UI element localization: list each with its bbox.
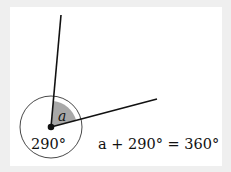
vertex-point: [48, 124, 55, 131]
reflex-angle-label: 290°: [31, 136, 66, 152]
angle-a-label: a: [58, 108, 66, 124]
equation-label: a + 290° = 360°: [98, 136, 219, 152]
angle-diagram: a 290° a + 290° = 360°: [0, 0, 231, 172]
